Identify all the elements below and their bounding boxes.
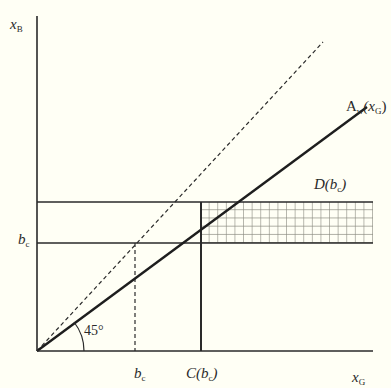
hatched-region	[201, 202, 373, 243]
x-tick-bc: bc	[134, 366, 146, 383]
y-axis-label: xB	[10, 17, 23, 34]
diagram-canvas	[0, 0, 391, 388]
y-tick-bc: bc	[18, 232, 30, 249]
45-degree-line	[37, 42, 323, 351]
aw-curve-label: Aw(xG)	[346, 99, 387, 116]
x-tick-cbc: C(bc)	[186, 366, 218, 383]
x-axis-label: xG	[352, 370, 365, 387]
region-label: D(bc)	[314, 177, 346, 194]
angle-arc	[74, 322, 84, 351]
angle-label: 45°	[84, 324, 104, 338]
